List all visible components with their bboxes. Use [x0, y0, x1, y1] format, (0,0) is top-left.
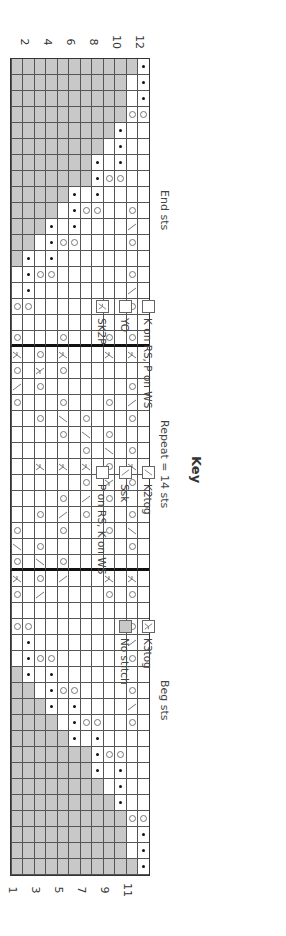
no-stitch-cell: [46, 731, 58, 747]
chart-cell: [80, 427, 92, 443]
chart-cell: [80, 635, 92, 651]
no-stitch-cell: [69, 811, 81, 827]
chart-cell: [138, 123, 150, 139]
no-stitch-cell: [46, 827, 58, 843]
chart-cell: [46, 299, 58, 315]
no-stitch-cell: [11, 59, 23, 75]
chart-cell: [103, 747, 115, 763]
chart-cell: [80, 699, 92, 715]
chart-cell: [23, 667, 35, 683]
chart-cell: [138, 763, 150, 779]
chart-cell: [34, 283, 46, 299]
key-item-label: K3tog: [143, 638, 155, 669]
purl-dot-icon: [119, 145, 122, 148]
no-stitch-cell: [23, 731, 35, 747]
chart-cell: [103, 219, 115, 235]
chart-cell: [46, 331, 58, 347]
ssk-icon: [81, 493, 91, 505]
chart-cell: [23, 395, 35, 411]
yo-circle-icon: [37, 511, 44, 518]
chart-cell: [115, 331, 127, 347]
row-label-6: 6: [64, 32, 77, 52]
chart-cell: [69, 619, 81, 635]
chart-cell: [92, 635, 104, 651]
chart-cell: [138, 427, 150, 443]
no-stitch-cell: [69, 779, 81, 795]
chart-cell: [126, 91, 138, 107]
ssk-icon: [127, 221, 137, 233]
no-stitch-cell: [11, 747, 23, 763]
chart-cell: [34, 251, 46, 267]
chart-cell: [115, 587, 127, 603]
chart-cell: [34, 651, 46, 667]
chart-cell: [126, 155, 138, 171]
ssk-icon: [127, 701, 137, 713]
no-stitch-cell: [11, 683, 23, 699]
chart-cell: [103, 587, 115, 603]
yo-circle-icon: [60, 334, 67, 341]
ssk-icon: [35, 589, 45, 601]
chart-cell: [92, 251, 104, 267]
chart-cell: [80, 539, 92, 555]
no-stitch-cell: [23, 827, 35, 843]
no-stitch-cell: [115, 91, 127, 107]
chart-cell: [69, 539, 81, 555]
purl-icon: [96, 466, 109, 479]
no-stitch-cell: [11, 91, 23, 107]
no-stitch-cell: [46, 747, 58, 763]
chart-cell: [115, 187, 127, 203]
no-stitch-cell: [57, 747, 69, 763]
row-label-5: 5: [52, 880, 65, 900]
chart-cell: [138, 107, 150, 123]
chart-cell: [138, 827, 150, 843]
chart-cell: [57, 475, 69, 491]
chart-cell: [57, 267, 69, 283]
chart-cell: [126, 139, 138, 155]
row-label-8: 8: [87, 32, 100, 52]
sk2p-icon: [127, 349, 137, 361]
chart-cell: [11, 347, 23, 363]
chart-cell: [57, 699, 69, 715]
chart-cell: [34, 315, 46, 331]
chart-cell: [34, 539, 46, 555]
chart-cell: [103, 347, 115, 363]
chart-cell: [46, 427, 58, 443]
chart-cell: [34, 299, 46, 315]
chart-cell: [46, 571, 58, 587]
chart-cell: [115, 427, 127, 443]
purl-dot-icon: [27, 273, 30, 276]
chart-cell: [69, 219, 81, 235]
chart-cell: [57, 619, 69, 635]
chart-cell: [80, 619, 92, 635]
no-stitch-cell: [34, 843, 46, 859]
yo-circle-icon: [129, 543, 136, 550]
no-stitch-cell: [11, 187, 23, 203]
no-stitch-cell: [34, 219, 46, 235]
purl-dot-icon: [119, 161, 122, 164]
chart-cell: [46, 283, 58, 299]
chart-cell: [69, 379, 81, 395]
yo-circle-icon: [60, 431, 67, 438]
chart-cell: [80, 571, 92, 587]
no-stitch-cell: [46, 203, 58, 219]
chart-cell: [115, 603, 127, 619]
no-stitch-cell: [80, 91, 92, 107]
chart-cell: [34, 267, 46, 283]
chart-cell: [23, 427, 35, 443]
chart-cell: [138, 795, 150, 811]
chart-cell: [46, 379, 58, 395]
chart-cell: [11, 395, 23, 411]
chart-cell: [46, 443, 58, 459]
no-stitch-cell: [34, 859, 46, 875]
no-stitch-cell: [34, 763, 46, 779]
no-stitch-cell: [23, 203, 35, 219]
chart-cell: [69, 203, 81, 219]
chart-cell: [57, 299, 69, 315]
end-sts-label: End sts: [158, 190, 171, 230]
chart-cell: [23, 459, 35, 475]
yo-circle-icon: [60, 527, 67, 534]
no-stitch-cell: [46, 795, 58, 811]
yo-circle-icon: [37, 543, 44, 550]
chart-cell: [115, 123, 127, 139]
chart-cell: [34, 411, 46, 427]
